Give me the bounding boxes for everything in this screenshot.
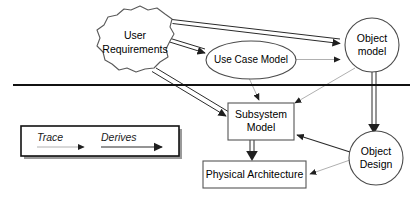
edge-user-requirements-to-use-case-model xyxy=(168,38,205,53)
node-physical-architecture[interactable]: Physical Architecture xyxy=(203,161,306,188)
node-label-user-requirements-line1: User xyxy=(124,29,147,41)
diagram-svg: User Requirements Use Case Model Object … xyxy=(0,0,416,199)
edge-object-design-to-subsystem-model xyxy=(297,135,350,152)
edge-object-model-to-object-design xyxy=(368,72,380,134)
edge-user-requirements-to-subsystem-model xyxy=(152,68,229,116)
node-subsystem-model[interactable]: Subsystem Model xyxy=(228,103,294,140)
node-label-subsystem-model-line1: Subsystem xyxy=(235,108,287,120)
legend: Trace Derives xyxy=(21,126,182,159)
edge-user-requirements-to-object-model xyxy=(172,20,340,44)
legend-label-derives: Derives xyxy=(101,131,137,143)
diagram-canvas: User Requirements Use Case Model Object … xyxy=(0,0,416,199)
node-label-physical-architecture: Physical Architecture xyxy=(206,168,304,180)
edge-subsystem-model-to-physical-architecture xyxy=(246,140,258,161)
edge-object-design-to-physical-architecture xyxy=(310,160,350,174)
node-label-object-model-line2: model xyxy=(358,45,387,57)
node-user-requirements[interactable]: User Requirements xyxy=(97,6,174,72)
node-label-object-design-line1: Object xyxy=(361,145,391,157)
node-object-design[interactable]: Object Design xyxy=(349,131,403,185)
edge-use-case-model-to-subsystem-model xyxy=(249,78,259,100)
node-label-subsystem-model-line2: Model xyxy=(247,121,276,133)
node-object-model[interactable]: Object model xyxy=(345,18,399,72)
node-label-use-case-model: Use Case Model xyxy=(214,54,288,65)
node-use-case-model[interactable]: Use Case Model xyxy=(206,41,296,79)
node-label-object-model-line1: Object xyxy=(357,32,387,44)
legend-label-trace: Trace xyxy=(37,131,63,143)
node-label-user-requirements-line2: Requirements xyxy=(102,43,167,55)
node-label-object-design-line2: Design xyxy=(360,158,393,170)
